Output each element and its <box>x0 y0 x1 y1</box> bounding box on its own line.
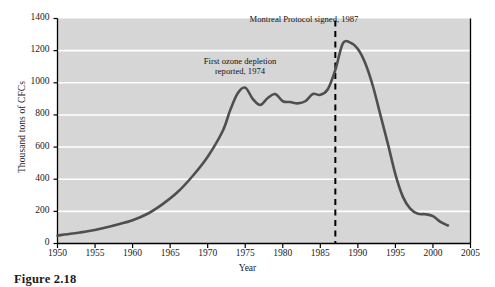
y-tick-label-1200: 1200 <box>8 44 50 54</box>
y-tick-label-600: 600 <box>8 141 50 151</box>
annotation-first-ozone-depletion: First ozone depletion reported, 1974 <box>160 56 320 77</box>
y-tick-label-800: 800 <box>8 108 50 118</box>
x-tick-label-2005: 2005 <box>449 248 493 258</box>
y-tick-label-200: 200 <box>8 205 50 215</box>
figure-caption: Figure 2.18 <box>14 272 76 287</box>
y-tick-label-1000: 1000 <box>8 76 50 86</box>
y-tick-label-1400: 1400 <box>8 12 50 22</box>
y-tick-label-400: 400 <box>8 173 50 183</box>
y-axis-label: Thousand tons of CFCs <box>17 42 27 212</box>
annotation-montreal-protocol: Montreal Protocol signed, 1987 <box>196 14 412 24</box>
plot-background <box>58 19 471 244</box>
y-tick-label-0: 0 <box>8 237 50 247</box>
